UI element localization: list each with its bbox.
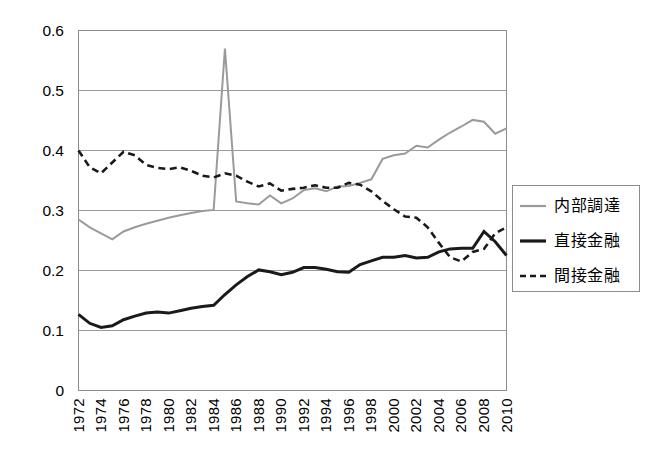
x-axis-tick-label: 1982 <box>183 398 198 433</box>
x-axis-tick-label: 1984 <box>206 398 221 433</box>
x-axis-tick-label: 2000 <box>386 398 401 433</box>
x-axis-tick-label: 1996 <box>341 398 356 433</box>
legend-label-indirect: 間接金融 <box>554 262 620 286</box>
x-axis-tick-label: 1994 <box>318 398 333 433</box>
y-axis-tick-label: 0.6 <box>8 23 64 39</box>
x-axis-tick-label: 1974 <box>93 398 108 433</box>
x-axis-tick-label: 1992 <box>296 398 311 433</box>
legend-item-indirect: 間接金融 <box>519 262 620 286</box>
y-axis-tick-label: 0.1 <box>8 323 64 339</box>
x-axis-tick-label: 1972 <box>71 398 86 433</box>
legend-item-internal: 内部調達 <box>519 192 620 216</box>
legend-label-internal: 内部調達 <box>554 192 620 216</box>
legend-item-direct: 直接金融 <box>519 227 620 251</box>
x-axis-tick-label: 1978 <box>138 398 153 433</box>
x-axis-tick-label: 2008 <box>476 398 491 433</box>
x-axis-tick-label: 2002 <box>408 398 423 433</box>
y-axis-tick-label: 0 <box>8 383 64 399</box>
x-axis-tick-label: 2010 <box>499 398 514 433</box>
y-axis-tick-label: 0.2 <box>8 263 64 279</box>
y-axis-tick-label: 0.3 <box>8 203 64 219</box>
dashed-black-line-icon <box>519 268 547 280</box>
x-axis-tick-label: 1986 <box>228 398 243 433</box>
x-axis-tick-label: 2006 <box>453 398 468 433</box>
y-axis-tick-label: 0.4 <box>8 143 64 159</box>
chart-legend: 内部調達 直接金融 間接金融 <box>512 185 640 292</box>
x-axis-tick-label: 1990 <box>273 398 288 433</box>
legend-label-direct: 直接金融 <box>554 227 620 251</box>
solid-black-line-icon <box>519 233 547 245</box>
gridlines <box>79 31 507 391</box>
chart-container: 0.60.50.40.30.20.10 19721974197619781980… <box>0 0 659 454</box>
solid-gray-line-icon <box>519 198 547 210</box>
x-axis-tick-label: 1976 <box>116 398 131 433</box>
x-axis-tick-label: 1980 <box>161 398 176 433</box>
x-axis-tick-label: 1998 <box>363 398 378 433</box>
x-axis-tick-label: 1988 <box>251 398 266 433</box>
series-line-2 <box>79 151 507 262</box>
y-axis-tick-label: 0.5 <box>8 83 64 99</box>
x-axis-tick-label: 2004 <box>431 398 446 433</box>
